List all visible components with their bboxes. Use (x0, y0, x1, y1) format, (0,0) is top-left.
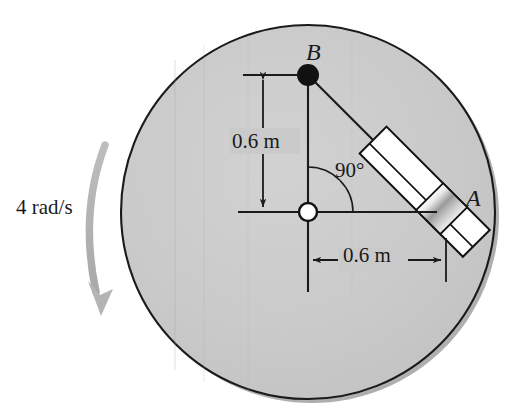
point-b-label: B (306, 40, 321, 64)
angular-velocity-arrow (88, 145, 113, 316)
figure-root: B A 90° 0.6 m 0.6 m 4 rad/s (0, 0, 517, 412)
pivot-point-o (299, 203, 317, 221)
point-b-marker (297, 64, 319, 86)
rotation-arrowhead (88, 281, 113, 316)
horizontal-dimension-label: 0.6 m (343, 245, 391, 266)
angle-label: 90° (335, 160, 364, 181)
angular-velocity-label: 4 rad/s (16, 197, 73, 218)
rotation-arc (89, 145, 105, 292)
vertical-dimension-label: 0.6 m (232, 131, 280, 152)
point-a-label: A (466, 186, 481, 210)
diagram-canvas (0, 0, 517, 412)
